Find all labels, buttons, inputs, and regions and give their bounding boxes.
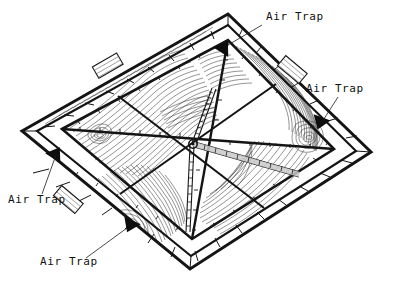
hub-node-center xyxy=(191,142,194,145)
air-trap-label-top: Air Trap xyxy=(266,10,324,23)
background xyxy=(0,0,399,285)
air-trap-diagram: Air Trap Air Trap Air Trap Air Trap xyxy=(0,0,399,285)
diagram-canvas: Air Trap Air Trap Air Trap Air Trap xyxy=(0,0,399,285)
air-trap-label-left: Air Trap xyxy=(8,193,66,206)
air-trap-label-bottom: Air Trap xyxy=(40,255,98,268)
air-trap-label-right: Air Trap xyxy=(306,82,364,95)
